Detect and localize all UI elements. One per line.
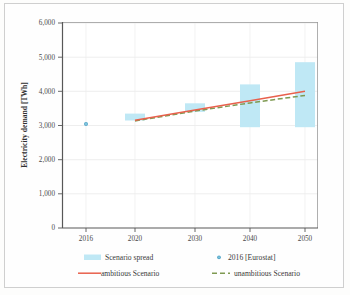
legend-label-ambitious-scenario: ambitious Scenario [101,269,160,278]
figure-container: 0 1,000 2,000 3,000 4,000 5,000 6,000 20… [0,0,350,295]
y-tick-label: 3,000 [39,122,56,130]
y-tick-label: 4,000 [39,88,56,96]
y-axis-ticks [58,23,62,228]
y-axis-title: Electricity demand [TWh] [20,82,29,168]
x-axis-tick-labels: 2016 2020 2030 2040 2050 [79,235,313,243]
x-axis-ticks [86,228,305,232]
spread-bar-2050 [295,62,315,127]
chart-legend: Scenario spread 2016 [Eurostat] ambitiou… [78,253,300,278]
y-axis-tick-labels: 0 1,000 2,000 3,000 4,000 5,000 6,000 [39,19,56,232]
legend-label-eurostat-2016: 2016 [Eurostat] [228,253,275,262]
plot-background [62,22,318,228]
y-tick-label: 5,000 [39,54,56,62]
spread-bar-2040 [240,84,260,127]
x-tick-label: 2050 [298,235,313,243]
y-tick-label: 1,000 [39,190,56,198]
y-tick-label: 6,000 [39,19,56,27]
x-tick-label: 2020 [128,235,143,243]
legend-marker-eurostat-2016 [217,255,221,259]
y-tick-label: 2,000 [39,156,56,164]
x-tick-label: 2030 [188,235,203,243]
y-tick-label: 0 [51,224,55,232]
legend-label-scenario-spread: Scenario spread [105,253,153,262]
eurostat-2016-point [84,122,88,126]
electricity-demand-chart: 0 1,000 2,000 3,000 4,000 5,000 6,000 20… [0,0,350,295]
legend-marker-scenario-spread [84,255,101,261]
legend-label-unambitious-scenario: unambitious Scenario [234,269,300,278]
x-tick-label: 2040 [243,235,258,243]
x-tick-label: 2016 [79,235,94,243]
